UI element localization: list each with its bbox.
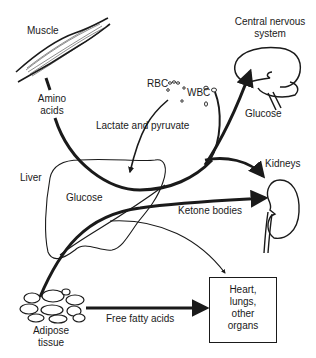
amino-acids-label-line1: Amino [37,93,67,105]
liver-outline [46,159,166,258]
amino-acids-label-line2: acids [37,105,67,117]
cns-label-line2: system [222,28,316,40]
liver-glucose-label: Glucose [66,192,103,204]
organs-box: Heart, lungs, other organs [209,277,277,343]
organs-box-label: Heart, lungs, other organs [210,284,276,332]
kidneys-label: Kidneys [265,158,301,170]
free-fatty-acids-label: Free fatty acids [106,313,174,325]
rbc-label: RBC [147,78,168,90]
glucose-to-cns-arrow [205,72,250,165]
lactate-pyruvate-label: Lactate and pyruvate [96,120,189,132]
amino-acids-arrow [46,78,50,90]
kidney-icon [264,180,299,253]
wbc-line [210,92,220,160]
adipose-label-line2: tissue [28,337,74,349]
muscle-label: Muscle [27,25,59,37]
adipose-label-line1: Adipose [28,325,74,337]
cns-label-line1: Central nervous [222,16,316,28]
glucose-to-kidneys-arrow [205,159,263,176]
ketone-bodies-label: Ketone bodies [178,205,242,217]
brain-icon [235,48,301,110]
adipose-tissue-icon [20,289,85,323]
wbc-label: WBC [187,87,210,99]
ketones-to-organs-arrow [110,221,225,273]
glucose-cns-label: Glucose [245,108,282,120]
liver-label: Liver [20,172,42,184]
